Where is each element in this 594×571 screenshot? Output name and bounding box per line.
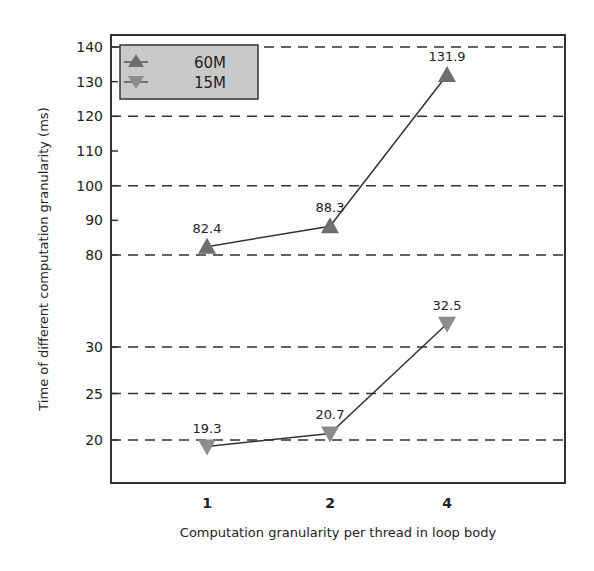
x-axis-title: Computation granularity per thread in lo… [180,525,497,540]
y-tick-label: 80 [85,247,103,263]
x-tick-label: 1 [202,495,212,511]
x-tick-label: 2 [325,495,335,511]
x-tick-label: 4 [442,495,452,511]
gridlines [111,47,565,440]
y-axis-title: Time of different computation granularit… [36,107,51,411]
y-tick-label: 120 [76,108,103,124]
legend-label-60m: 60M [194,54,226,72]
y-tick-label: 140 [76,39,103,55]
legend-box [120,45,258,99]
data-label: 82.4 [193,221,222,236]
data-label: 20.7 [316,407,345,422]
data-label: 19.3 [193,421,222,436]
y-tick-label: 100 [76,178,103,194]
series-line-60m [207,75,447,247]
x-axis-ticks: 124 [202,495,452,511]
data-label: 131.9 [428,49,465,64]
triangle-down-marker [198,440,216,456]
y-tick-label: 20 [85,432,103,448]
legend: 60M 15M [120,45,258,99]
legend-label-15m: 15M [194,74,226,92]
data-label: 88.3 [316,200,345,215]
data-label: 32.5 [433,298,462,313]
y-tick-label: 130 [76,74,103,90]
data-series: 82.488.3131.919.320.732.5 [193,49,466,455]
y-tick-label: 30 [85,339,103,355]
y-tick-label: 110 [76,143,103,159]
line-chart: 8090100110120130140202530 124 82.488.313… [0,0,594,571]
y-tick-label: 25 [85,386,103,402]
triangle-up-marker [438,66,456,82]
y-tick-label: 90 [85,212,103,228]
triangle-up-marker [321,217,339,233]
